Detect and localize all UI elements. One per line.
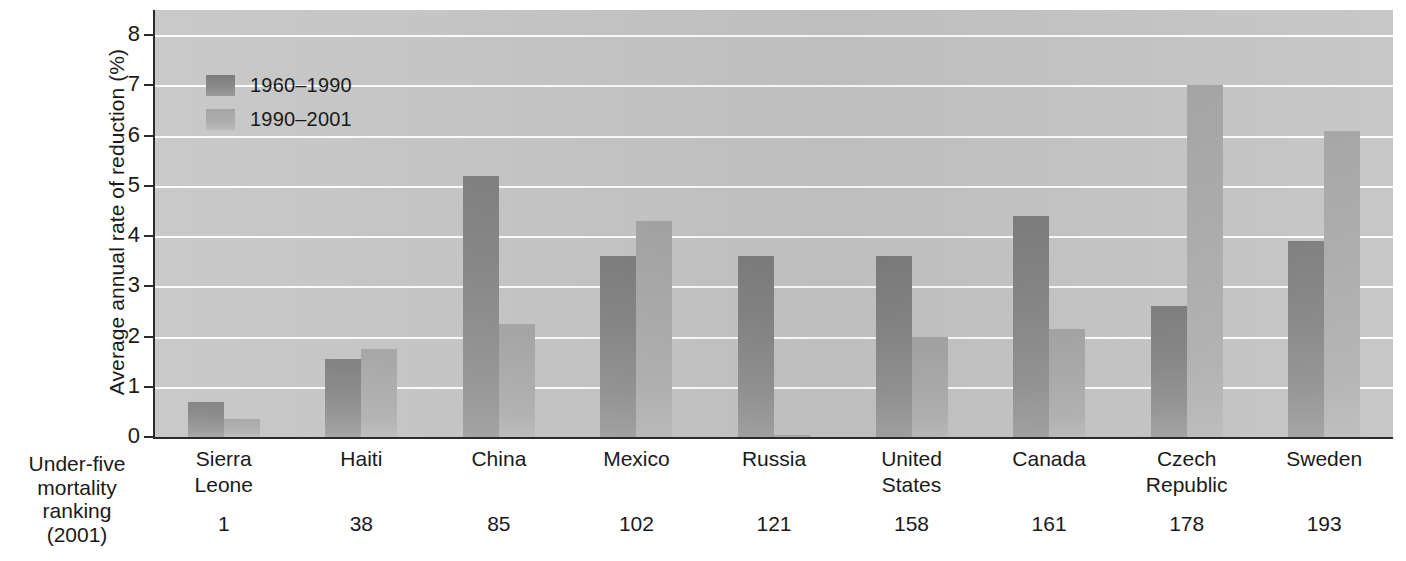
bar-series1-3: [600, 256, 636, 437]
y-tick-label-6: 6: [80, 124, 140, 146]
y-tick-mark-1: [144, 386, 153, 388]
x-axis-label-5-line2: States: [822, 472, 1002, 498]
bar-series1-4: [738, 256, 774, 437]
legend-item-series1: 1960–1990: [206, 68, 352, 102]
legend-swatch-icon-series1: [206, 75, 235, 96]
y-tick-label-0: 0: [80, 425, 140, 447]
bar-series2-1: [361, 349, 397, 437]
bar-series1-6: [1013, 216, 1049, 437]
y-tick-mark-6: [144, 135, 153, 137]
y-axis-line: [153, 10, 155, 438]
y-tick-mark-0: [144, 436, 153, 438]
y-tick-label-7: 7: [80, 73, 140, 95]
legend-swatch-icon-series2: [206, 109, 235, 130]
bar-series1-7: [1151, 306, 1187, 437]
y-tick-label-5: 5: [80, 174, 140, 196]
secondary-axis-label-line4: (2001): [2, 523, 152, 547]
x-axis-line: [153, 437, 1393, 439]
y-tick-mark-5: [144, 185, 153, 187]
y-tick-mark-2: [144, 336, 153, 338]
chart-figure: Average annual rate of reduction (%) 012…: [0, 0, 1406, 561]
y-tick-mark-4: [144, 235, 153, 237]
chart-legend: 1960–1990 1990–2001: [206, 68, 352, 136]
y-tick-label-2: 2: [80, 325, 140, 347]
secondary-axis-label: Under-five mortality ranking (2001): [2, 452, 152, 546]
y-tick-mark-3: [144, 285, 153, 287]
x-axis-label-7-line2: Republic: [1097, 472, 1277, 498]
x-axis-label-8-line1: Sweden: [1234, 446, 1406, 472]
secondary-axis-label-line1: Under-five: [2, 452, 152, 476]
secondary-axis-label-line3: ranking: [2, 499, 152, 523]
rank-value-8: 193: [1234, 512, 1406, 536]
y-tick-mark-8: [144, 34, 153, 36]
legend-item-series2: 1990–2001: [206, 102, 352, 136]
legend-label-series1: 1960–1990: [250, 74, 352, 97]
bar-series2-2: [499, 324, 535, 437]
bar-series1-8: [1288, 241, 1324, 437]
y-tick-label-8: 8: [80, 23, 140, 45]
bar-series1-1: [325, 359, 361, 437]
y-tick-mark-7: [144, 84, 153, 86]
gridline-8: [155, 35, 1393, 37]
bar-series2-3: [636, 221, 672, 437]
y-tick-label-3: 3: [80, 274, 140, 296]
bar-series1-2: [463, 176, 499, 437]
y-tick-label-4: 4: [80, 224, 140, 246]
bar-series1-5: [876, 256, 912, 437]
bar-series2-0: [224, 419, 260, 437]
secondary-axis-label-line2: mortality: [2, 476, 152, 500]
bar-series2-7: [1187, 85, 1223, 437]
bar-series2-8: [1324, 131, 1360, 437]
bar-series1-0: [188, 402, 224, 437]
y-tick-label-1: 1: [80, 375, 140, 397]
x-axis-label-8: Sweden: [1234, 446, 1406, 472]
x-axis-label-0-line2: Leone: [134, 472, 314, 498]
legend-label-series2: 1990–2001: [250, 108, 352, 131]
bar-series2-5: [912, 337, 948, 437]
bar-series2-6: [1049, 329, 1085, 437]
